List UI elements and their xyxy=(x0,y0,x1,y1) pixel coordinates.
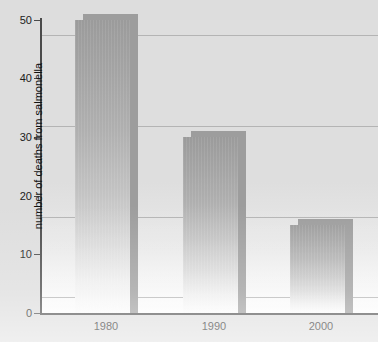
bar-chart-figure: 50 40 30 20 10 0 1980 1990 2000 number o… xyxy=(0,0,378,342)
y-tick-label-40: 40 xyxy=(0,73,32,84)
y-tick-mark-0 xyxy=(34,313,41,314)
x-tick-label-1980: 1980 xyxy=(71,320,141,332)
y-tick-label-10: 10 xyxy=(0,249,32,260)
bar-2000-face xyxy=(290,225,345,313)
bar-1980-face xyxy=(75,20,130,313)
y-tick-label-0: 0 xyxy=(0,308,32,319)
y-tick-label-50: 50 xyxy=(0,15,32,26)
y-tick-label-20: 20 xyxy=(0,191,32,202)
x-axis-line xyxy=(40,313,378,315)
y-tick-mark-50 xyxy=(34,20,41,21)
y-tick-label-30: 30 xyxy=(0,132,32,143)
y-axis-title: number of deaths from salmonella xyxy=(32,26,44,266)
x-tick-label-1990: 1990 xyxy=(179,320,249,332)
x-tick-label-2000: 2000 xyxy=(286,320,356,332)
bar-1990-face xyxy=(183,137,238,313)
